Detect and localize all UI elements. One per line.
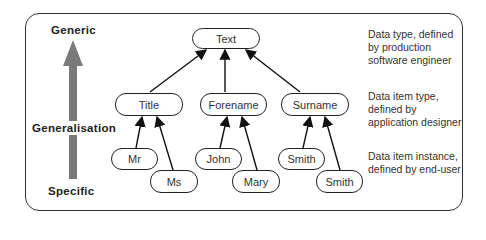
generalisation-label: Generalisation xyxy=(32,121,116,135)
node-title: Title xyxy=(115,93,183,116)
node-smith-1: Smith xyxy=(278,148,325,170)
generalisation-arrow-head xyxy=(63,40,83,66)
node-text: Text xyxy=(192,28,260,49)
description-data-type: Data type, defined by production softwar… xyxy=(368,28,453,67)
node-surname: Surname xyxy=(281,93,349,116)
node-mary: Mary xyxy=(232,170,280,193)
node-smith-2: Smith xyxy=(316,170,363,193)
node-ms: Ms xyxy=(150,170,198,193)
node-forename: Forename xyxy=(200,93,267,116)
description-data-item-type: Data item type, defined by application d… xyxy=(368,90,461,129)
specific-label: Specific xyxy=(48,185,95,197)
description-data-item-instance: Data item instance, defined by end-user xyxy=(368,150,461,176)
node-mr: Mr xyxy=(111,148,158,170)
node-john: John xyxy=(195,148,242,170)
generic-label: Generic xyxy=(51,24,96,36)
